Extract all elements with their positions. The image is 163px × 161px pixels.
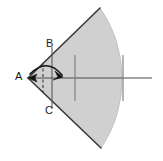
sector-diagram-svg [0,0,163,161]
vertex-label-b: B [46,38,53,49]
geometry-figure: A B C [0,0,163,161]
vertex-label-c: C [45,105,53,116]
vertex-label-a: A [15,71,22,82]
